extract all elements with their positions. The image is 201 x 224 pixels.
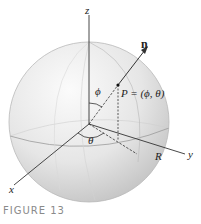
normal-label: n	[141, 37, 148, 51]
x-axis-label: x	[8, 183, 14, 195]
theta-label: θ	[88, 134, 94, 146]
sphere-diagram: z n P = (ϕ, θ) ϕ θ R y x	[0, 0, 201, 224]
point-p	[116, 83, 119, 86]
figure-caption: FIGURE 13	[3, 205, 65, 216]
z-axis-label: z	[84, 4, 90, 16]
phi-label: ϕ	[95, 85, 101, 97]
radius-label: R	[154, 150, 162, 162]
point-label: P = (ϕ, θ)	[120, 87, 165, 100]
y-axis-label: y	[187, 148, 193, 160]
